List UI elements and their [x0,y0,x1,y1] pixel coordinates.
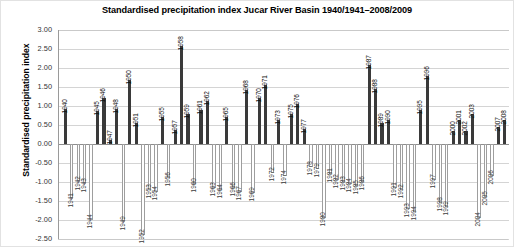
bar-1999 [445,144,448,207]
gridline [59,49,509,50]
gridline [59,106,509,107]
bar-label-1951: 1951 [132,113,138,127]
bar-label-1997: 1997 [430,174,436,188]
bar-label-1944: 1944 [87,214,93,228]
bar-label-1976: 1976 [294,94,300,108]
bar-label-1971: 1971 [262,75,268,89]
bar-label-1969: 1969 [249,188,255,202]
bar-label-1948: 1948 [113,99,119,113]
bar-1967 [238,144,241,192]
bar-1971 [264,85,267,144]
y-tick-label: 2.50 [0,45,52,52]
bar-label-2003: 2003 [469,105,475,119]
bar-1993 [406,144,409,209]
bar-label-2002: 2002 [462,121,468,135]
bar-1966 [232,144,235,188]
bar-1995 [419,110,422,144]
bar-1998 [439,144,442,203]
bar-1987 [368,65,371,144]
bar-label-1945: 1945 [94,101,100,115]
bar-label-1958: 1958 [178,36,184,50]
bar-label-1954: 1954 [152,186,158,200]
bar-label-1999: 1999 [443,201,449,215]
bar-label-1979: 1979 [313,163,319,177]
plot-bottom-rule [58,239,508,240]
gridline [59,30,509,31]
bar-label-1995: 1995 [417,100,423,114]
y-tick-label: -0.50 [0,159,52,166]
bar-label-1965: 1965 [223,107,229,121]
bar-1970 [258,98,261,144]
bar-label-1959: 1959 [184,105,190,119]
bar-label-1992: 1992 [397,184,403,198]
bar-label-1980: 1980 [320,212,326,226]
y-tick-label: 3.00 [0,26,52,33]
bar-label-1960: 1960 [191,178,197,192]
bar-label-1950: 1950 [126,70,132,84]
bar-1994 [413,144,416,212]
bar-2004 [477,144,480,218]
bar-1940 [64,109,67,144]
bar-label-2004: 2004 [475,212,481,226]
bar-label-1977: 1977 [300,119,306,133]
gridline [59,220,509,221]
bar-1992 [400,144,403,190]
bar-1949 [122,144,125,222]
bar-1948 [115,109,118,144]
bar-1954 [154,144,157,192]
y-tick-label: 1.00 [0,102,52,109]
bar-label-1947: 1947 [106,130,112,144]
y-tick-label: 0.00 [0,140,52,147]
bar-1961 [199,110,202,144]
bar-label-2006: 2006 [488,170,494,184]
bar-label-1970: 1970 [255,89,261,103]
y-tick-label: 1.50 [0,83,52,90]
bar-label-1987: 1987 [365,55,371,69]
bar-label-1940: 1940 [61,99,67,113]
y-tick-label: -2.00 [0,216,52,223]
bar-label-1964: 1964 [216,184,222,198]
gridline [59,125,509,126]
gridline [59,87,509,88]
bar-label-1972: 1972 [268,167,274,181]
bar-label-1990: 1990 [385,111,391,125]
y-tick-label: -1.50 [0,197,52,204]
bar-label-1962: 1962 [203,92,209,106]
bar-label-1943: 1943 [81,178,87,192]
bar-1964 [219,144,222,190]
bar-1950 [128,80,131,144]
y-tick-label: -2.50 [0,235,52,242]
bar-label-1949: 1949 [119,216,125,230]
bar-1969 [251,144,254,193]
bar-1962 [206,101,209,144]
bar-2003 [471,114,474,144]
bar-label-1941: 1941 [68,193,74,207]
bar-1963 [212,144,215,188]
bar-label-1973: 1973 [275,111,281,125]
bar-label-1996: 1996 [423,67,429,81]
bar-1944 [89,144,92,220]
bar-1958 [180,46,183,144]
bar-1959 [186,114,189,144]
y-tick-label: 0.50 [0,121,52,128]
bar-label-1955: 1955 [158,107,164,121]
bar-label-1986: 1986 [359,176,365,190]
bar-1991 [393,144,396,188]
bar-label-1952: 1952 [139,229,145,243]
bar-1953 [148,144,151,190]
plot-area: 1940194119421943194419451946194719481949… [58,30,508,239]
bar-1968 [245,90,248,144]
bar-label-1957: 1957 [171,120,177,134]
gridline [59,68,509,69]
bar-label-2008: 2008 [501,111,507,125]
bar-label-2005: 2005 [481,191,487,205]
bar-label-1956: 1956 [165,172,171,186]
bar-1941 [70,144,73,199]
bar-label-1946: 1946 [100,88,106,102]
bar-label-1994: 1994 [410,207,416,221]
bar-label-1974: 1974 [281,170,287,184]
y-tick-label: -1.00 [0,178,52,185]
bar-1945 [96,111,99,144]
y-tick-label: 2.00 [0,64,52,71]
chart-root: Standardised precipitation index Jucar R… [0,0,514,247]
